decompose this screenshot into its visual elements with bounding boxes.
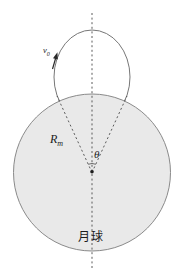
center-dot (90, 170, 94, 174)
velocity-label-sub: 0 (47, 51, 50, 57)
angle-label: θ (94, 148, 100, 160)
radius-label-sub: m (57, 139, 63, 148)
figure-canvas: v0 Rm θ 月球 (0, 0, 184, 275)
velocity-arrowhead-icon (53, 52, 58, 59)
moon-label: 月球 (78, 230, 104, 244)
velocity-label: v0 (43, 45, 50, 57)
physics-diagram: v0 Rm θ 月球 (0, 0, 184, 275)
